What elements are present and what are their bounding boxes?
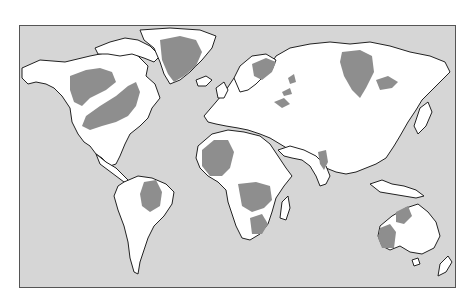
world-map	[19, 25, 456, 288]
north-america	[22, 50, 160, 166]
madagascar	[280, 196, 290, 220]
new-zealand	[438, 256, 452, 276]
iceland	[196, 76, 212, 86]
tasmania	[412, 258, 420, 266]
world-map-svg	[20, 26, 456, 288]
indonesia	[370, 180, 424, 198]
